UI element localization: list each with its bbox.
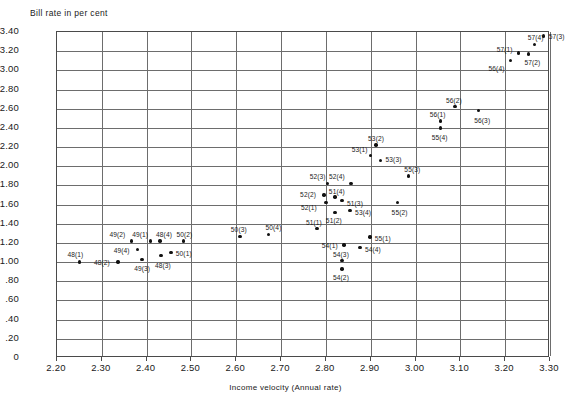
y-axis-tick-label: 2.60: [0, 102, 19, 113]
x-axis-tick-label: 2.50: [166, 362, 214, 373]
data-point: [477, 109, 480, 112]
gridline-horizontal: [57, 51, 548, 52]
x-axis-tick-mark: [549, 357, 550, 361]
gridline-horizontal: [57, 185, 548, 186]
x-axis-tick-label: 3.20: [480, 362, 528, 373]
y-axis-tick-label: 3.20: [0, 44, 19, 55]
x-axis-title: Income velocity (Annual rate): [0, 383, 571, 392]
data-point: [374, 143, 377, 146]
gridline-vertical: [326, 32, 327, 356]
data-point: [182, 239, 185, 242]
data-point-label: 50(2): [176, 231, 192, 238]
gridline-vertical: [416, 32, 417, 356]
data-point-label: 49(1): [132, 231, 148, 238]
x-axis-tick-label: 2.40: [122, 362, 170, 373]
data-point-label: 54(4): [365, 246, 381, 253]
data-point-label: 54(2): [333, 274, 349, 281]
y-axis-tick-label: .40: [5, 313, 19, 324]
data-point-label: 50(4): [266, 224, 282, 231]
x-axis-tick-label: 3.00: [391, 362, 439, 373]
x-axis-tick-mark: [280, 357, 281, 361]
data-point-label: 48(1): [67, 251, 83, 258]
gridline-horizontal: [57, 281, 548, 282]
data-point: [533, 43, 536, 46]
y-axis-tick-label: 2.00: [0, 159, 19, 170]
gridline-vertical: [281, 32, 282, 356]
x-axis-tick-label: 2.80: [301, 362, 349, 373]
y-axis-tick-label: 3.40: [0, 25, 19, 36]
data-point: [130, 239, 133, 242]
data-point-label: 57(2): [524, 59, 540, 66]
data-point-label: 55(4): [432, 134, 448, 141]
data-point: [267, 233, 270, 236]
data-point: [340, 267, 343, 270]
gridline-horizontal: [57, 320, 548, 321]
data-point-label: 49(3): [134, 265, 150, 272]
gridline-horizontal: [57, 147, 548, 148]
data-point-label: 51(1): [306, 219, 322, 226]
gridline-horizontal: [57, 243, 548, 244]
x-axis-tick-mark: [325, 357, 326, 361]
data-point: [439, 119, 442, 122]
data-point-label: 53(1): [352, 146, 368, 153]
data-point: [369, 154, 372, 157]
y-axis-tick-label: .80: [5, 274, 19, 285]
data-point-label: 50(3): [231, 226, 247, 233]
data-point-label: 53(2): [368, 135, 384, 142]
data-point: [527, 52, 530, 55]
data-point: [238, 235, 241, 238]
data-point-label: 48(4): [156, 231, 172, 238]
x-axis-tick-label: 2.60: [211, 362, 259, 373]
data-point-label: 56(3): [474, 117, 490, 124]
data-point: [348, 209, 351, 212]
gridline-horizontal: [57, 224, 548, 225]
gridline-vertical: [147, 32, 148, 356]
gridline-vertical: [371, 32, 372, 356]
x-axis-tick-mark: [235, 357, 236, 361]
y-axis-tick-label: 1.80: [0, 178, 19, 189]
data-point-label: 50(1): [176, 250, 192, 257]
data-point: [379, 159, 382, 162]
x-axis-tick-mark: [101, 357, 102, 361]
gridline-horizontal: [57, 128, 548, 129]
data-point: [159, 254, 162, 257]
gridline-horizontal: [57, 90, 548, 91]
data-point-label: 51(3): [347, 200, 363, 207]
data-point: [322, 193, 325, 196]
data-point: [333, 211, 336, 214]
y-axis-title: Bill rate in per cent: [30, 8, 108, 18]
gridline-horizontal: [57, 109, 548, 110]
x-axis-tick-mark: [459, 357, 460, 361]
gridline-vertical: [460, 32, 461, 356]
x-axis-tick-label: 3.10: [435, 362, 483, 373]
x-axis-tick-mark: [56, 357, 57, 361]
chart-figure: Bill rate in per cent 48(1)48(2)48(3)48(…: [0, 0, 571, 407]
data-point-label: 56(2): [446, 97, 462, 104]
x-axis-tick-label: 2.20: [32, 362, 80, 373]
data-point-label: 56(1): [430, 111, 446, 118]
data-point: [78, 260, 81, 263]
gridline-vertical: [505, 32, 506, 356]
data-point-label: 57(3): [549, 33, 565, 40]
data-point: [517, 51, 520, 54]
data-point-label: 53(4): [355, 209, 371, 216]
data-point: [368, 235, 371, 238]
y-axis-tick-label: 1.40: [0, 217, 19, 228]
y-axis-tick-label: 0: [14, 351, 19, 362]
x-axis-tick-label: 2.90: [346, 362, 394, 373]
gridline-horizontal: [57, 300, 548, 301]
data-point-label: 52(2): [300, 191, 316, 198]
data-point-label: 55(2): [392, 209, 408, 216]
gridline-vertical: [236, 32, 237, 356]
y-axis-tick-label: 2.80: [0, 83, 19, 94]
gridline-vertical: [191, 32, 192, 356]
y-axis-tick-label: 1.20: [0, 236, 19, 247]
data-point-label: 48(2): [94, 259, 110, 266]
data-point: [149, 239, 152, 242]
gridline-horizontal: [57, 70, 548, 71]
x-axis-tick-mark: [146, 357, 147, 361]
y-axis-tick-label: 1.00: [0, 255, 19, 266]
data-point-label: 57(4): [528, 34, 544, 41]
x-axis-tick-mark: [190, 357, 191, 361]
y-axis-tick-label: 1.60: [0, 198, 19, 209]
